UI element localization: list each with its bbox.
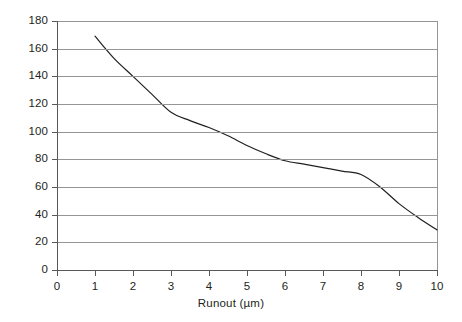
y-axis-tick-label: 0 — [42, 264, 49, 276]
x-axis-tick-mark — [323, 270, 324, 276]
x-axis-title: Runout (µm) — [0, 297, 462, 309]
y-axis-tick-mark — [52, 104, 58, 105]
gridline-horizontal — [57, 104, 437, 105]
x-axis-tick-label: 2 — [118, 281, 148, 293]
plot-area — [57, 21, 437, 270]
y-axis-tick-mark — [52, 242, 58, 243]
gridline-horizontal — [57, 187, 437, 188]
gridline-horizontal — [57, 159, 437, 160]
y-axis-tick-mark — [52, 187, 58, 188]
x-axis-tick-mark — [133, 270, 134, 276]
x-axis-tick-mark — [171, 270, 172, 276]
y-axis-tick-mark — [52, 21, 58, 22]
y-axis-tick-mark — [52, 76, 58, 77]
gridline-horizontal — [57, 21, 437, 22]
y-axis-tick-label: 180 — [29, 15, 49, 27]
y-axis-tick-label: 80 — [35, 153, 48, 165]
y-axis-tick-label: 120 — [29, 98, 49, 110]
y-axis-tick-mark — [52, 159, 58, 160]
gridline-horizontal — [57, 76, 437, 77]
x-axis-tick-label: 8 — [346, 281, 376, 293]
y-axis-tick-label: 20 — [35, 236, 48, 248]
y-axis-tick-label: 160 — [29, 43, 49, 55]
y-axis-tick-label: 140 — [29, 70, 49, 82]
x-axis-tick-label: 3 — [156, 281, 186, 293]
y-axis-tick-mark — [52, 215, 58, 216]
gridline-horizontal — [57, 215, 437, 216]
y-axis-tick-label: 100 — [29, 126, 49, 138]
gridline-horizontal — [57, 49, 437, 50]
gridline-horizontal — [57, 132, 437, 133]
y-axis-line — [57, 21, 58, 271]
x-axis-tick-label: 0 — [42, 281, 72, 293]
chart-figure: Tool life (%) Runout (µm) 02040608010012… — [0, 0, 462, 322]
x-axis-tick-label: 9 — [384, 281, 414, 293]
x-axis-tick-mark — [95, 270, 96, 276]
x-axis-tick-label: 10 — [422, 281, 452, 293]
x-axis-tick-mark — [285, 270, 286, 276]
y-axis-tick-label: 60 — [35, 181, 48, 193]
plot-right-edge — [437, 21, 438, 271]
y-axis-tick-label: 40 — [35, 209, 48, 221]
x-axis-tick-mark — [399, 270, 400, 276]
x-axis-tick-label: 1 — [80, 281, 110, 293]
y-axis-tick-mark — [52, 132, 58, 133]
x-axis-tick-mark — [209, 270, 210, 276]
x-axis-tick-label: 5 — [232, 281, 262, 293]
x-axis-tick-label: 7 — [308, 281, 338, 293]
x-axis-tick-mark — [437, 270, 438, 276]
x-axis-tick-label: 4 — [194, 281, 224, 293]
x-axis-tick-mark — [57, 270, 58, 276]
x-axis-tick-mark — [361, 270, 362, 276]
x-axis-tick-label: 6 — [270, 281, 300, 293]
y-axis-tick-mark — [52, 49, 58, 50]
x-axis-tick-mark — [247, 270, 248, 276]
gridline-horizontal — [57, 242, 437, 243]
